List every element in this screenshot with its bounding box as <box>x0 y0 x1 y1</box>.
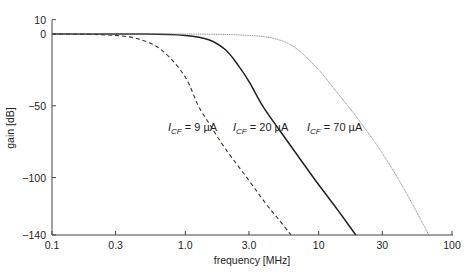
y-tick-label: 10 <box>34 14 46 26</box>
x-tick-label: 3.0 <box>242 239 257 251</box>
y-axis-title: gain [dB] <box>4 107 16 149</box>
y-ticks: 100−50−100−140 <box>22 14 56 241</box>
x-tick-label: 0.1 <box>45 239 60 251</box>
y-tick-label: −100 <box>22 172 46 184</box>
bode-gain-chart: 0.10.31.03.01030100 100−50−100−140 ICF =… <box>0 0 474 278</box>
x-tick-label: 30 <box>376 239 388 251</box>
x-axis-title: frequency [MHz] <box>214 254 291 266</box>
x-tick-label: 10 <box>313 239 325 251</box>
series-label-2: ICF = 70 µA <box>307 121 363 136</box>
x-ticks: 0.10.31.03.01030100 <box>45 231 461 251</box>
y-tick-label: −50 <box>28 100 46 112</box>
annotations: ICF = 9 µAICF = 20 µAICF = 70 µA <box>168 121 363 136</box>
series-label-1: ICF = 20 µA <box>233 121 289 136</box>
series-label-0: ICF = 9 µA <box>168 121 218 136</box>
y-tick-label: −140 <box>22 229 46 241</box>
x-tick-label: 0.3 <box>108 239 123 251</box>
x-tick-label: 1.0 <box>178 239 193 251</box>
y-tick-label: 0 <box>40 28 46 40</box>
x-tick-label: 100 <box>443 239 461 251</box>
